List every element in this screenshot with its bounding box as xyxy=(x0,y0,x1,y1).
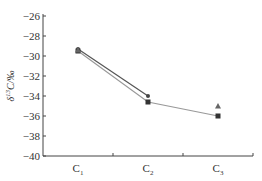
series-square-line xyxy=(78,51,218,116)
x-category-label: C1 xyxy=(73,162,84,177)
line-chart: −26−28−30−32−34−36−38−40C1C2C3δ13C/‰ xyxy=(0,0,262,181)
x-category-label: C3 xyxy=(213,162,224,177)
square-marker xyxy=(146,100,151,105)
series-circle-line xyxy=(78,49,148,96)
y-tick-label: −40 xyxy=(23,150,41,162)
triangle-marker xyxy=(215,103,221,109)
x-category-label: C2 xyxy=(143,162,154,177)
y-tick-label: −32 xyxy=(23,70,40,82)
y-tick-label: −26 xyxy=(23,10,41,22)
circle-marker xyxy=(146,94,150,98)
y-tick-label: −34 xyxy=(23,90,41,102)
square-marker xyxy=(216,114,221,119)
y-tick-label: −30 xyxy=(23,50,41,62)
y-tick-label: −38 xyxy=(23,130,41,142)
chart-container: −26−28−30−32−34−36−38−40C1C2C3δ13C/‰ xyxy=(0,0,262,181)
y-axis-label: δ13C/‰ xyxy=(4,70,16,101)
y-tick-label: −28 xyxy=(23,30,41,42)
y-tick-label: −36 xyxy=(23,110,41,122)
